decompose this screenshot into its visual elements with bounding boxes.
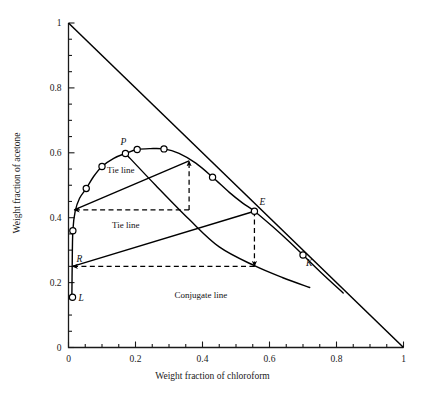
- y-tick-label: 0.2: [50, 278, 62, 288]
- data-point-marker: [251, 208, 257, 214]
- hypotenuse-line: [69, 23, 404, 348]
- data-point-marker: [122, 150, 128, 156]
- y-tick-label: 0.8: [50, 83, 62, 93]
- x-tick-label: 0.4: [197, 354, 209, 364]
- y-tick-label: 0.4: [50, 213, 62, 223]
- x-tick-label: 0: [66, 354, 71, 364]
- data-point-marker: [70, 228, 76, 234]
- data-point-marker: [69, 294, 75, 300]
- x-tick-label: 0.6: [264, 354, 276, 364]
- point-label-R: R: [76, 254, 83, 264]
- figure-container: 00.20.40.60.8100.20.40.60.81PEKRLTie lin…: [0, 0, 425, 407]
- lower-tie-line: [73, 211, 255, 266]
- y-tick-label: 1: [57, 18, 62, 28]
- phase-diagram-plot: 00.20.40.60.8100.20.40.60.81PEKRLTie lin…: [0, 0, 425, 407]
- x-tick-label: 1: [401, 354, 406, 364]
- y-tick-label: 0.6: [50, 148, 62, 158]
- conjugate-line: [125, 153, 309, 287]
- data-point-marker: [161, 146, 167, 152]
- x-tick-label: 0.2: [130, 354, 142, 364]
- x-tick-label: 0.8: [331, 354, 343, 364]
- data-point-marker: [134, 146, 140, 152]
- point-label-P: P: [120, 137, 127, 147]
- x-axis-title: Weight fraction of chloroform: [0, 371, 425, 381]
- data-point-marker: [99, 163, 105, 169]
- point-label-L: L: [78, 293, 84, 303]
- y-axis-title: Weight fraction of acetone: [12, 93, 22, 273]
- tieline-lower-label: Tie line: [112, 220, 139, 230]
- conjugate-line-label: Conjugate line: [174, 290, 227, 300]
- data-layer: [69, 23, 404, 348]
- y-tick-label: 0: [57, 343, 62, 353]
- tieline-upper-label: Tie line: [107, 165, 134, 175]
- point-label-K: K: [305, 258, 313, 268]
- data-point-marker: [83, 185, 89, 191]
- data-point-marker: [209, 174, 215, 180]
- point-label-E: E: [258, 197, 265, 207]
